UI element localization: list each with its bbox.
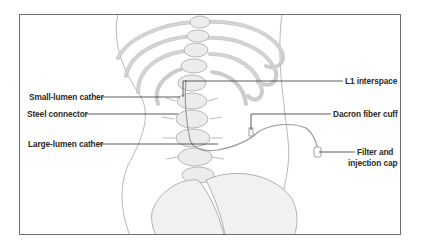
label-dacron-fiber-cuff: Dacron fiber cuff [333,109,398,119]
diagram-canvas: Small-lumen cather Steel connector Large… [0,0,421,249]
label-small-lumen-catheter: Small-lumen cather [29,92,104,102]
label-large-lumen-catheter: Large-lumen cather [28,139,103,149]
label-steel-connector: Steel connector [27,109,88,119]
label-filter-line1: Filter and [357,147,393,157]
label-l1-interspace: L1 interspace [345,76,397,86]
figure-frame [19,14,401,235]
label-filter-line2: injection cap [348,158,397,168]
